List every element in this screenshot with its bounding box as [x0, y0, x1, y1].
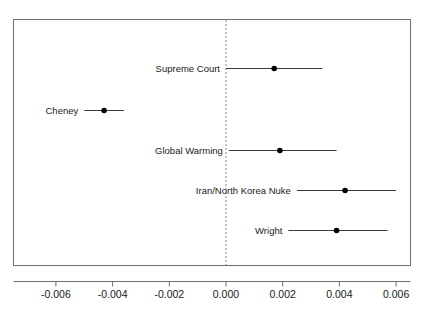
estimate-point-marker	[277, 148, 283, 154]
estimate-point-marker	[271, 66, 277, 72]
estimate-point-marker	[334, 228, 340, 234]
estimate-row-label: Global Warming	[155, 145, 223, 156]
x-axis-tick-label: 0.006	[383, 288, 409, 300]
estimate-point-marker	[342, 188, 348, 194]
x-axis-tick-label: 0.000	[213, 288, 239, 300]
estimate-row-label: Wright	[255, 225, 283, 236]
x-axis-tick-label: 0.004	[326, 288, 352, 300]
estimate-row-label: Supreme Court	[156, 63, 221, 74]
figure-background	[0, 0, 422, 322]
coefficient-plot-figure: -0.006-0.004-0.0020.0000.0020.0040.006 S…	[0, 0, 422, 322]
estimate-point-marker	[101, 108, 107, 114]
estimate-row-label: Iran/North Korea Nuke	[196, 185, 291, 196]
plot-canvas: -0.006-0.004-0.0020.0000.0020.0040.006 S…	[0, 0, 422, 322]
x-axis-tick-label: -0.004	[98, 288, 128, 300]
estimate-row-label: Cheney	[46, 105, 79, 116]
x-axis-tick-label: 0.002	[270, 288, 296, 300]
x-axis-tick-label: -0.006	[41, 288, 71, 300]
x-axis-tick-label: -0.002	[154, 288, 184, 300]
